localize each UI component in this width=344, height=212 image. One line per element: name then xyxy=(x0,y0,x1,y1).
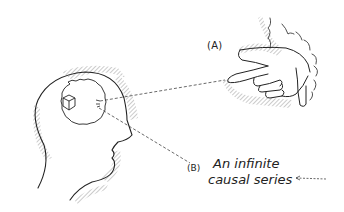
label-b-marker: (B) xyxy=(187,163,200,173)
label-b-text-line2: causal series xyxy=(208,172,292,187)
hand-shading xyxy=(222,16,292,108)
thought-cloud xyxy=(61,79,106,124)
cloud-rays-icon xyxy=(268,18,318,100)
arrow-left-icon xyxy=(296,176,326,180)
arrow-b-line xyxy=(99,108,190,163)
label-a: (A) xyxy=(207,40,223,51)
impact-marks xyxy=(96,100,100,107)
head-shading xyxy=(33,66,138,204)
illustration: (A) (B) An infinite causal series xyxy=(0,0,344,212)
label-b-text-line1: An infinite xyxy=(213,156,279,171)
head-outline xyxy=(35,72,132,200)
cube-icon xyxy=(63,95,75,110)
